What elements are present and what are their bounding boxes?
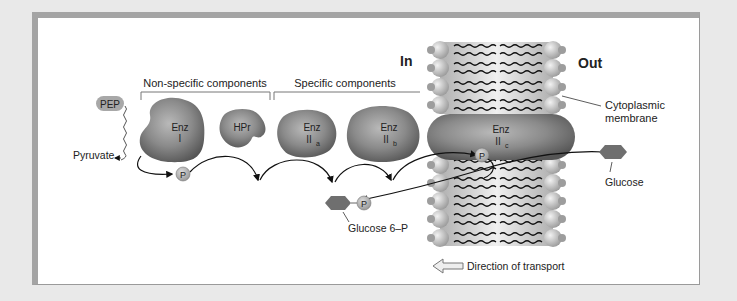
lipid-head-group bbox=[427, 234, 435, 242]
enzyme-iic-sub: c bbox=[505, 142, 509, 149]
pts-diagram: Non-specific components Specific compone… bbox=[0, 0, 737, 301]
non-specific-label: Non-specific components bbox=[143, 77, 267, 89]
enzyme-i-line1: Enz bbox=[171, 122, 188, 133]
lipid-head-group bbox=[558, 101, 566, 109]
pep-label: PEP bbox=[100, 99, 120, 110]
lipid-head-group bbox=[427, 215, 435, 223]
enzyme-iib-line2: II bbox=[383, 134, 389, 145]
glucose-6p-phosphate-label: P bbox=[361, 199, 367, 209]
glucose-leader-line bbox=[610, 162, 612, 172]
direction-arrow-icon bbox=[433, 259, 463, 273]
lipid-head-group bbox=[427, 83, 435, 91]
enzi-to-hpr-arrow bbox=[190, 156, 258, 180]
membrane-leader-line bbox=[562, 96, 601, 106]
enzyme-iia-line1: Enz bbox=[303, 122, 320, 133]
glucose-hexagon bbox=[599, 145, 627, 159]
lipid-head-group bbox=[427, 46, 435, 54]
enzyme-iic-line2: II bbox=[495, 136, 501, 147]
enzyme-iia-sub: a bbox=[316, 140, 320, 147]
glucose-6p-label: Glucose 6–P bbox=[348, 222, 408, 234]
phosphate-label: P bbox=[479, 151, 485, 161]
enzyme-iic-line1: Enz bbox=[492, 124, 509, 135]
glucose-label: Glucose bbox=[605, 176, 644, 188]
lipid-head-group bbox=[558, 161, 566, 169]
phosphate-enziic: P bbox=[475, 148, 489, 162]
enzyme-iia-line2: II bbox=[306, 134, 312, 145]
lipid-head-group bbox=[427, 101, 435, 109]
pyruvate-label: Pyruvate bbox=[73, 149, 115, 161]
lipid-head-group bbox=[427, 161, 435, 169]
hpr-label: HPr bbox=[233, 122, 251, 133]
hpr-to-iia-arrow bbox=[260, 160, 332, 182]
lipid-head-group bbox=[427, 64, 435, 72]
enzyme-iib-line1: Enz bbox=[380, 122, 397, 133]
in-label: In bbox=[400, 53, 412, 69]
glucose-6p-hexagon bbox=[325, 196, 351, 210]
direction-label: Direction of transport bbox=[467, 260, 565, 272]
phosphate-enzi: P bbox=[176, 167, 190, 181]
lipid-head-group bbox=[558, 46, 566, 54]
non-specific-bracket bbox=[141, 92, 270, 100]
lipid-head-group bbox=[558, 215, 566, 223]
lipid-head-group bbox=[558, 179, 566, 187]
lipid-head-group bbox=[558, 234, 566, 242]
membrane-label-line1: Cytoplasmic bbox=[605, 99, 665, 111]
out-label: Out bbox=[578, 55, 602, 71]
specific-label: Specific components bbox=[294, 77, 396, 89]
glucose-6p-leader-line bbox=[343, 212, 349, 222]
enzyme-i-line2: I bbox=[179, 133, 182, 144]
iia-to-iib-arrow bbox=[335, 164, 391, 182]
membrane-label-line2: membrane bbox=[605, 112, 658, 124]
lipid-head-group bbox=[558, 83, 566, 91]
phosphate-label: P bbox=[180, 170, 186, 180]
lipid-head-group bbox=[427, 197, 435, 205]
enzyme-iib-sub: b bbox=[393, 140, 397, 147]
pep-squiggle bbox=[121, 106, 127, 160]
specific-bracket bbox=[274, 92, 420, 100]
lipid-head-group bbox=[558, 64, 566, 72]
lipid-head-group bbox=[558, 197, 566, 205]
